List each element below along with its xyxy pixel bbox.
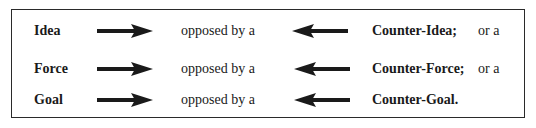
counter-label: Counter-Idea;: [372, 21, 457, 41]
connector-text: opposed by a: [181, 59, 255, 79]
counter-label: Counter-Goal.: [372, 90, 458, 110]
left-arrow-icon: [292, 24, 348, 38]
row-force: Force opposed by a Counter-Force; or a: [0, 59, 536, 79]
row-goal: Goal opposed by a Counter-Goal.: [0, 90, 536, 110]
right-arrow-icon: [97, 93, 153, 107]
term-label: Force: [34, 59, 68, 79]
term-label: Idea: [34, 21, 60, 41]
counter-label: Counter-Force;: [372, 59, 465, 79]
left-arrow-icon: [294, 62, 350, 76]
left-arrow-icon: [294, 93, 350, 107]
suffix-text: or a: [478, 21, 499, 41]
connector-text: opposed by a: [181, 90, 255, 110]
connector-text: opposed by a: [181, 21, 255, 41]
term-label: Goal: [34, 90, 63, 110]
right-arrow-icon: [97, 24, 153, 38]
row-idea: Idea opposed by a Counter-Idea; or a: [0, 21, 536, 41]
right-arrow-icon: [97, 62, 153, 76]
suffix-text: or a: [478, 59, 499, 79]
